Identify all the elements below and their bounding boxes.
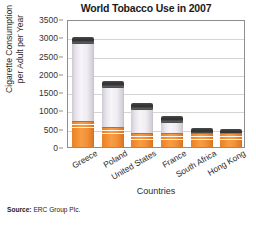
filter-band (191, 136, 213, 137)
filter-band (72, 127, 94, 128)
filter-band (102, 133, 124, 134)
cigarette-burnt-tip (72, 37, 94, 44)
filter-band (72, 124, 94, 125)
y-tick-mark (59, 111, 63, 112)
y-axis-title-line2: per Adult per Year (15, 15, 25, 83)
y-tick-mark (59, 38, 63, 39)
filter-band (131, 136, 153, 137)
y-tick-mark (59, 74, 63, 75)
bar (191, 128, 213, 147)
cigarette-filter (161, 133, 183, 147)
bar (131, 103, 153, 147)
x-axis-ticks: GreecePolandUnited StatesFranceSouth Afr… (67, 148, 245, 182)
cigarette-paper (131, 110, 153, 133)
gridline (68, 112, 244, 113)
chart-title: World Tobacco Use in 2007 (40, 2, 252, 14)
bar (220, 129, 242, 147)
filter-seam (220, 133, 242, 134)
gridline (68, 76, 244, 77)
bar (72, 37, 94, 147)
y-tick-label: 3500 (39, 16, 58, 25)
filter-seam (161, 133, 183, 134)
chart-figure: World Tobacco Use in 2007 Cigarette Cons… (0, 0, 256, 225)
gridline (68, 131, 244, 132)
source-text: ERC Group Plc. (33, 206, 80, 213)
cigarette-filter (102, 127, 124, 147)
y-axis-title-line1: Cigarette Consumption (4, 5, 14, 93)
cigarette-paper (102, 88, 124, 127)
cigarette-paper (72, 44, 94, 121)
filter-band (161, 136, 183, 137)
filter-band (220, 136, 242, 137)
y-tick-label: 2500 (39, 52, 58, 61)
bar (102, 81, 124, 147)
cigarette-paper (161, 123, 183, 133)
y-tick-label: 500 (44, 125, 58, 134)
y-axis-ticks: 0500100015002000250030003500 (32, 20, 63, 148)
y-tick-label: 3000 (39, 34, 58, 43)
x-axis-title: Countries (67, 186, 245, 196)
plot-area (67, 20, 245, 148)
filter-band (191, 139, 213, 140)
filter-seam (72, 121, 94, 122)
filter-band (102, 130, 124, 131)
gridline (68, 94, 244, 95)
cigarette-filter (131, 133, 153, 147)
gridline (68, 39, 244, 40)
cigarette-filter (72, 121, 94, 147)
cigarette-burnt-tip (161, 116, 183, 123)
y-tick-mark (59, 20, 63, 21)
y-tick-mark (59, 129, 63, 130)
filter-seam (102, 127, 124, 128)
source-label: Source: (7, 206, 32, 213)
filter-seam (191, 133, 213, 134)
source-note: Source: ERC Group Plc. (7, 206, 80, 213)
cigarette-burnt-tip (102, 81, 124, 88)
filter-seam (131, 133, 153, 134)
cigarette-burnt-tip (131, 103, 153, 110)
cigarette-filter (220, 133, 242, 147)
y-tick-mark (59, 93, 63, 94)
filter-band (220, 139, 242, 140)
x-tick-label: Greece (70, 148, 99, 170)
y-tick-label: 1500 (39, 89, 58, 98)
y-tick-mark (59, 148, 63, 149)
y-tick-mark (59, 56, 63, 57)
y-tick-label: 0 (53, 144, 58, 153)
filter-band (161, 139, 183, 140)
cigarette-filter (191, 133, 213, 147)
gridline (68, 58, 244, 59)
filter-band (131, 139, 153, 140)
y-axis-title: Cigarette Consumption per Adult per Year (4, 0, 26, 109)
y-tick-label: 2000 (39, 71, 58, 80)
y-tick-label: 1000 (39, 107, 58, 116)
bar (161, 116, 183, 147)
